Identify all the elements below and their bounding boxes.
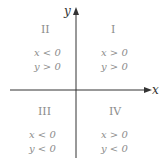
quadrant-numeral: II bbox=[41, 24, 50, 35]
x-condition: x > 0 bbox=[101, 47, 128, 58]
y-condition: y > 0 bbox=[34, 61, 61, 72]
x-condition: x > 0 bbox=[101, 129, 128, 140]
x-condition: x < 0 bbox=[29, 129, 56, 140]
y-condition: y > 0 bbox=[101, 61, 128, 72]
x-condition: x < 0 bbox=[34, 47, 61, 58]
coordinate-axes bbox=[0, 0, 161, 165]
y-condition: y < 0 bbox=[101, 143, 128, 154]
y-axis-label: y bbox=[64, 4, 71, 18]
x-axis-label: x bbox=[152, 83, 159, 97]
y-condition: y < 0 bbox=[29, 143, 56, 154]
y-axis-arrow-icon bbox=[73, 7, 79, 15]
x-axis-arrow-icon bbox=[144, 87, 152, 93]
quadrant-numeral: IV bbox=[109, 106, 121, 117]
quadrant-numeral: III bbox=[38, 106, 51, 117]
quadrant-numeral: I bbox=[111, 24, 115, 35]
